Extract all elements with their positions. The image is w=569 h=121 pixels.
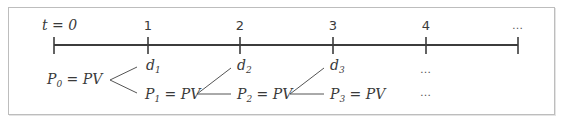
tick-label-ellipsis: … bbox=[512, 19, 524, 32]
node-d2: d2 bbox=[237, 57, 252, 75]
node-p1: P1 = PV bbox=[144, 86, 202, 104]
ellipsis-bottom: … bbox=[420, 86, 432, 99]
tick-label-1: 1 bbox=[144, 18, 152, 33]
tick-label-2: 2 bbox=[236, 18, 244, 33]
ellipsis-top: … bbox=[420, 63, 432, 76]
tick-label-0: t = 0 bbox=[42, 17, 77, 33]
timeline-diagram: t = 0 1 2 3 4 … P0 = PV d1 P1 = PV d2 P2… bbox=[0, 0, 569, 121]
branch-p0-p1 bbox=[110, 80, 137, 93]
tick-label-3: 3 bbox=[329, 18, 337, 33]
node-d3: d3 bbox=[330, 57, 345, 75]
branch-p0-d1 bbox=[110, 67, 137, 80]
node-p2: P2 = PV bbox=[236, 86, 294, 104]
node-p0: P0 = PV bbox=[46, 71, 104, 89]
branch-p1-d2 bbox=[197, 68, 231, 94]
branch-p2-d3 bbox=[290, 68, 324, 94]
tick-label-4: 4 bbox=[422, 18, 430, 33]
node-d1: d1 bbox=[146, 57, 161, 75]
node-p3: P3 = PV bbox=[329, 86, 387, 104]
